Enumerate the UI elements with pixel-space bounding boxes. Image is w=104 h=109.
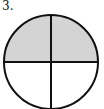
fraction-circle-diagram (0, 0, 104, 109)
